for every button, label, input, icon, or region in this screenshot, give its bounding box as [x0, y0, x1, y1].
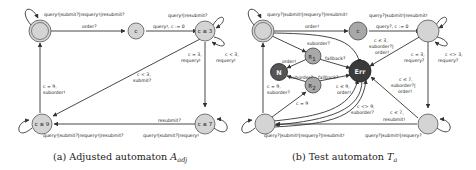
label-c3-loop-right-2: requery! [216, 58, 236, 63]
loop-s9 [242, 120, 255, 133]
label-s3-loop-right-2: requery? [438, 58, 459, 63]
state-s9 [255, 114, 275, 134]
label-s9-to-init-2: suborder? [267, 90, 290, 95]
state-err: Err [349, 60, 371, 82]
label-c3-to-c9: c < 3, [137, 72, 151, 77]
state-s3 [417, 20, 439, 42]
loop-c7 [214, 119, 227, 132]
label-c9-loop: query!|submit?|requery!|resubmit? [43, 133, 124, 139]
edge-init-to-r1 [272, 36, 306, 52]
loop-c3-top [213, 17, 224, 28]
label-r2-to-err: fallback? [318, 75, 339, 80]
label-init-loop: query?|submit!|requery?|resubmit! [267, 12, 348, 18]
label-c-to-s3: query?, c := 0 [376, 24, 408, 29]
label-s3-to-err-3: order! [375, 50, 389, 55]
caption-a: (a) Adjusted automaton Aadj [53, 151, 187, 164]
svg-text:c ≤ 3: c ≤ 3 [198, 28, 213, 34]
label-s7-to-s9-2: resubmit! [383, 117, 405, 122]
label-init-to-c: order? [82, 24, 97, 29]
state-s7 [418, 114, 438, 134]
label-s9-to-r2: c = 9 [296, 101, 308, 106]
label-s9-to-err-b-2: suborder? [351, 110, 374, 115]
label-c3-to-c7-2: requery! [181, 58, 201, 63]
test-automaton: c R1 N R2 Err query?|submit!|requery?|re… [242, 9, 463, 164]
label-c3-loop-right: c < 3, [225, 52, 239, 57]
state-c-le-3: c ≤ 3 [195, 21, 215, 41]
state-n: N [271, 64, 288, 81]
label-s9-to-err-a: c ≤ 9, [336, 84, 350, 89]
label-c7-to-c9: resubmit? [158, 118, 181, 123]
label-s7-loop: query?|submit!|requery? [365, 133, 422, 139]
state-r1: R1 [305, 48, 321, 64]
label-s3-to-err: c ≤ 3, [374, 38, 388, 43]
label-c3-to-c7: c = 3, [188, 52, 202, 57]
label-init-to-c: order! [305, 24, 319, 29]
svg-text:N: N [276, 69, 281, 77]
edge-c3-to-c9 [53, 38, 202, 116]
label-c3-loop-top: query!|resubmit? [168, 13, 208, 19]
label-c-to-c3: query!, c := 0 [153, 24, 185, 29]
loop-c3-right [212, 37, 224, 46]
label-s3-loop-top: query?|submit!|resubmit! [369, 13, 428, 19]
label-c9-to-init-2: suborder! [43, 90, 65, 95]
state-c: c [128, 23, 144, 39]
state-initial [252, 20, 274, 42]
label-s9-loop: query?|submit!|requery?|resubmit! [264, 133, 345, 139]
label-s9-to-err-a-2: order! [337, 90, 351, 95]
adjusted-automaton: c c ≤ 3 c ≤ 9 c ≤ 7 query!|submit?|reque… [19, 9, 239, 164]
svg-text:c ≤ 7: c ≤ 7 [198, 121, 213, 127]
state-c: c [349, 22, 367, 40]
svg-text:Err: Err [355, 68, 367, 76]
svg-text:c ≤ 9: c ≤ 9 [35, 121, 50, 127]
label-c3-to-c9-2: submit? [133, 78, 152, 83]
label-s3-to-s7-2: requery? [404, 58, 425, 63]
label-c9-to-init: c = 9, [43, 84, 57, 89]
label-r1-to-err: fallback? [325, 56, 346, 61]
label-init-to-r1: suborder? [307, 41, 330, 46]
label-s9-to-init: c = 9, [267, 84, 281, 89]
label-init-loop: query!|submit?|requery!|resubmit? [44, 12, 125, 18]
label-s7-to-err-3: order! [398, 89, 412, 94]
label-c7-loop: query!|submit?|requery! [143, 133, 199, 139]
label-r1-to-n: order! [282, 59, 296, 64]
automata-figure: c c ≤ 3 c ≤ 9 c ≤ 7 query!|submit?|reque… [0, 0, 476, 170]
loop-c9 [19, 120, 32, 133]
label-s3-loop-right: c <> 3, [445, 52, 463, 57]
loop-s3-right [435, 37, 447, 46]
label-r2-to-n: suborder? [290, 75, 313, 80]
caption-b: (b) Test automaton Ta [292, 151, 397, 164]
label-s9-to-err-b: c <> 9, [357, 104, 375, 109]
svg-text:c: c [356, 28, 359, 34]
state-initial [29, 20, 51, 42]
label-s3-to-s7: c = 3, [411, 52, 425, 57]
state-c-le-7: c ≤ 7 [195, 114, 215, 134]
label-s7-to-err: c ≤ 7, [399, 77, 413, 82]
svg-text:c: c [134, 28, 137, 34]
label-s7-to-s9: c ≤ 7, [390, 110, 404, 115]
loop-s7 [437, 119, 450, 132]
state-c-le-9: c ≤ 9 [32, 114, 52, 134]
